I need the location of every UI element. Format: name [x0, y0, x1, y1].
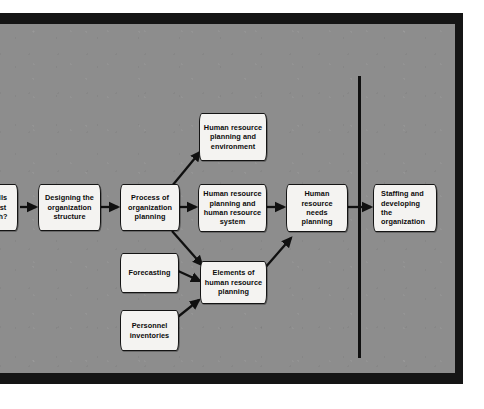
- node-hr-planning-and-environment[interactable]: Human resource planning and environment: [199, 113, 267, 161]
- node-skills-question[interactable]: llssth?: [0, 184, 18, 231]
- node-skills-question-label: llssth?: [0, 193, 14, 221]
- node-forecasting-label: Forecasting: [124, 268, 175, 277]
- node-personnel-inventories-label: Personnel inventories: [124, 321, 175, 340]
- node-process-of-organization-planning-label: Process of organization planning: [124, 193, 176, 221]
- node-designing-organization-structure[interactable]: Designing the organization structure: [38, 184, 101, 231]
- node-hr-needs-planning-label: Human resource needs planning: [290, 189, 344, 227]
- node-personnel-inventories[interactable]: Personnel inventories: [120, 310, 179, 351]
- node-staffing-and-developing-label: Staffing and developing the organization: [377, 189, 433, 227]
- node-hr-planning-and-hr-system[interactable]: Human resource planning and human resour…: [198, 184, 267, 232]
- node-designing-organization-structure-label: Designing the organization structure: [42, 193, 97, 221]
- node-staffing-and-developing[interactable]: Staffing and developing the organization: [373, 184, 437, 232]
- node-hr-needs-planning[interactable]: Human resource needs planning: [286, 184, 348, 232]
- figure-canvas: llssth? Designing the organization struc…: [0, 0, 484, 409]
- node-process-of-organization-planning[interactable]: Process of organization planning: [120, 184, 180, 231]
- node-elements-of-hr-planning[interactable]: Elements of human resource planning: [200, 261, 267, 304]
- node-forecasting[interactable]: Forecasting: [120, 253, 179, 293]
- node-elements-of-hr-planning-label: Elements of human resource planning: [204, 268, 263, 296]
- phase-divider-line: [358, 76, 361, 358]
- node-hr-planning-and-hr-system-label: Human resource planning and human resour…: [202, 189, 263, 227]
- node-hr-planning-and-environment-label: Human resource planning and environment: [203, 123, 263, 151]
